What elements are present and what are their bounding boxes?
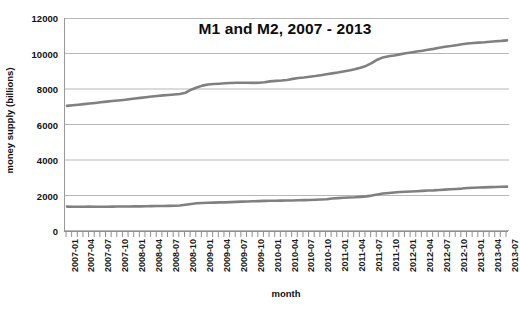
y-tick-label: 4000 — [37, 155, 58, 166]
series-line-m1 — [67, 187, 507, 207]
x-tick-label: 2010-10 — [323, 239, 333, 272]
x-tick-label: 2007-04 — [86, 239, 96, 272]
y-axis-tick-labels: 020004000600080001000012000 — [18, 18, 62, 231]
x-tick-label: 2009-10 — [256, 239, 266, 272]
series-line-m2 — [67, 40, 507, 105]
gridlines — [65, 19, 509, 231]
x-tick-label: 2007-07 — [103, 239, 113, 272]
x-tick-label: 2008-04 — [154, 239, 164, 272]
x-tick-label: 2011-07 — [374, 239, 384, 272]
x-tick-label: 2013-01 — [476, 239, 486, 272]
x-tick-label: 2009-04 — [222, 239, 232, 272]
x-tick-label: 2010-04 — [290, 239, 300, 272]
plot-area — [64, 18, 508, 231]
x-tick-label: 2012-07 — [442, 239, 452, 272]
x-tick-marks — [64, 232, 508, 238]
plot-svg — [65, 18, 509, 231]
x-tick-label: 2010-01 — [273, 239, 283, 272]
y-tick-label: 2000 — [37, 190, 58, 201]
chart-title: M1 and M2, 2007 - 2013 — [120, 20, 450, 38]
series-lines — [67, 40, 507, 206]
x-tick-label: 2013-04 — [493, 239, 503, 272]
x-tick-label: 2008-01 — [137, 239, 147, 272]
x-tick-label: 2008-10 — [188, 239, 198, 272]
y-axis-title-text: money supply (billions) — [4, 67, 15, 173]
x-tick-label: 2012-01 — [408, 239, 418, 272]
y-axis-title: money supply (billions) — [0, 0, 18, 240]
x-tick-label: 2011-10 — [391, 239, 401, 272]
x-axis-svg — [64, 231, 508, 239]
x-axis-ticks — [64, 231, 508, 239]
x-tick-label: 2010-07 — [306, 239, 316, 272]
x-tick-label: 2009-01 — [205, 239, 215, 272]
x-tick-label: 2012-10 — [459, 239, 469, 272]
x-tick-label: 2009-07 — [239, 239, 249, 272]
x-tick-label: 2007-10 — [120, 239, 130, 272]
x-tick-label: 2012-04 — [425, 239, 435, 272]
x-tick-label: 2011-04 — [357, 239, 367, 272]
x-tick-label: 2011-01 — [340, 239, 350, 272]
y-tick-label: 10000 — [32, 48, 58, 59]
x-tick-label: 2013-07 — [510, 239, 520, 272]
y-tick-label: 12000 — [32, 13, 58, 24]
x-tick-label: 2007-01 — [70, 239, 80, 272]
x-axis-tick-labels: 2007-012007-042007-072007-102008-012008-… — [64, 239, 508, 285]
y-tick-label: 6000 — [37, 119, 58, 130]
x-axis-title: month — [64, 288, 508, 299]
y-tick-label: 0 — [53, 226, 58, 237]
x-tick-label: 2008-07 — [171, 239, 181, 272]
y-tick-label: 8000 — [37, 84, 58, 95]
